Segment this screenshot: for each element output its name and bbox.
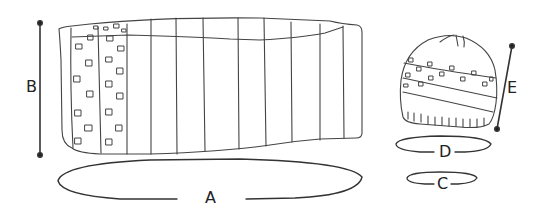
hat-brim-ribbing xyxy=(408,112,484,127)
label-b: B xyxy=(26,79,37,95)
hat-square-pattern xyxy=(404,58,493,87)
cowl-illustration xyxy=(38,18,362,199)
schematic-diagram: B A E D C xyxy=(0,0,545,210)
label-e: E xyxy=(507,80,517,96)
schematic-drawing xyxy=(0,0,545,210)
dimension-line-b xyxy=(38,21,42,157)
label-c: C xyxy=(437,176,448,192)
hat-outline xyxy=(400,35,496,127)
label-a: A xyxy=(205,190,216,206)
label-d: D xyxy=(439,144,451,160)
hat-illustration xyxy=(396,35,514,184)
